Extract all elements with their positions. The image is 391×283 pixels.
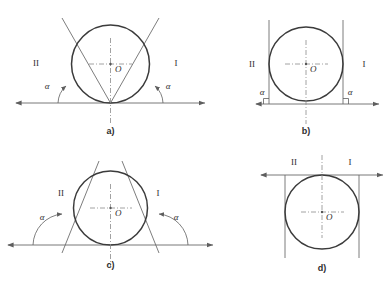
panel-b-right-angle-right: [343, 99, 349, 105]
panel-a: II I α α O a): [16, 18, 205, 136]
panel-b: II I α α O b): [249, 20, 379, 136]
panel-b-label-I: I: [363, 59, 366, 69]
panel-a-label-II: II: [33, 58, 39, 68]
panel-c-label: c): [106, 260, 114, 270]
geometry-figure: II I α α O a) II I α α O b) II: [0, 0, 391, 283]
panel-a-center-dot: [109, 63, 111, 65]
panel-d-label: d): [318, 263, 327, 273]
panel-c-center-dot: [109, 207, 111, 209]
panel-a-angle-arc-right: [155, 86, 163, 103]
panel-b-label-II: II: [249, 59, 255, 69]
panel-b-label-center: O: [310, 64, 317, 74]
panel-c-label-center: O: [115, 208, 122, 218]
panel-c-label-II: II: [58, 188, 64, 198]
panel-b-center-dot: [305, 63, 307, 65]
panel-a-label-alpha-left: α: [45, 81, 50, 91]
panel-d-label-center: O: [326, 212, 333, 222]
panel-a-label: a): [106, 126, 114, 136]
panel-b-label-alpha-right: α: [348, 87, 353, 97]
panel-a-label-alpha-right: α: [166, 81, 171, 91]
panel-a-tangent-left: [62, 18, 111, 103]
panel-d: II I O d): [261, 155, 383, 273]
panel-c-label-alpha-right: α: [174, 212, 179, 222]
panel-d-center-dot: [321, 211, 323, 213]
panel-c-label-alpha-left: α: [40, 212, 45, 222]
panel-b-label: b): [302, 126, 311, 136]
panel-d-label-I: I: [349, 157, 352, 167]
figure-container: II I α α O a) II I α α O b) II: [0, 0, 391, 283]
panel-a-tangent-right: [111, 18, 160, 103]
panel-b-right-angle-left: [264, 99, 270, 105]
panel-c: II I α α O c): [8, 161, 213, 270]
panel-d-label-II: II: [291, 157, 297, 167]
panel-a-label-center: O: [115, 64, 122, 74]
panel-b-label-alpha-left: α: [260, 87, 265, 97]
panel-a-angle-arc-left: [58, 86, 66, 103]
panel-c-label-I: I: [157, 188, 160, 198]
panel-c-angle-arc-left: [33, 214, 62, 245]
panel-a-label-I: I: [175, 58, 178, 68]
